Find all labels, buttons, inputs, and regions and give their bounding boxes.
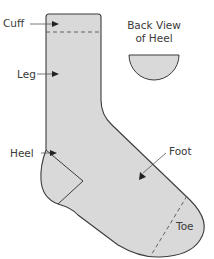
sock-diagram: Cuff Leg Heel Foot Toe Back View of Heel [0, 0, 214, 259]
label-foot: Foot [169, 145, 192, 157]
back-view-caption-line2: of Heel [135, 32, 172, 44]
label-cuff: Cuff [3, 17, 25, 29]
label-toe: Toe [175, 220, 194, 232]
label-leg: Leg [17, 68, 36, 80]
back-view-caption-line1: Back View [127, 19, 181, 31]
back-view-heel-shape [129, 55, 179, 80]
label-heel: Heel [10, 147, 34, 159]
